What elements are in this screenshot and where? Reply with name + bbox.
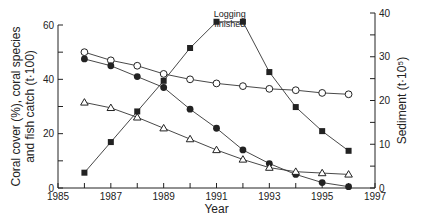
open-circle-marker [319, 90, 326, 97]
filled-square-marker [161, 78, 167, 84]
y-tick-label: 60 [43, 20, 55, 31]
y-axis-title-line2: and fish catch (t·100) [23, 50, 37, 163]
open-triangle-marker [160, 124, 168, 130]
series-open-circle [81, 49, 352, 98]
y2-tick-label: 20 [379, 95, 391, 106]
x-tick-label: 1985 [47, 191, 70, 202]
filled-circle-marker [134, 73, 141, 80]
y2-tick-label: 30 [379, 51, 391, 62]
y2-tick-label: 10 [379, 139, 391, 150]
open-circle-marker [81, 49, 88, 56]
series-open-triangle [81, 99, 353, 177]
open-circle-marker [213, 80, 220, 87]
x-tick-label: 1991 [205, 191, 228, 202]
y2-tick-label: 40 [379, 8, 391, 19]
x-tick-label: 1989 [153, 191, 176, 202]
series-group [81, 19, 353, 190]
filled-circle-marker [213, 125, 220, 132]
filled-square-marker [346, 148, 352, 154]
series-filled-circle [81, 56, 352, 190]
series-line [84, 59, 348, 187]
open-circle-marker [240, 83, 247, 90]
y-axis-title-line1: Coral cover (%), coral species [9, 26, 23, 186]
y-tick-label: 40 [43, 74, 55, 85]
open-triangle-marker [81, 99, 89, 105]
x-tick-label: 1997 [364, 191, 387, 202]
open-circle-marker [134, 62, 141, 69]
annotation-logging: Logging [214, 9, 246, 19]
y-tick-label: 20 [43, 128, 55, 139]
filled-circle-marker [81, 56, 88, 63]
filled-square-marker [293, 104, 299, 110]
series-line [84, 52, 348, 94]
open-circle-marker [187, 76, 194, 83]
open-triangle-marker [186, 135, 194, 141]
open-circle-marker [345, 91, 352, 98]
filled-square-marker [266, 69, 272, 75]
open-circle-marker [160, 71, 167, 78]
filled-circle-marker [107, 62, 114, 69]
filled-square-marker [187, 45, 193, 51]
filled-circle-marker [187, 106, 194, 113]
annotation-finished: finished [214, 19, 245, 29]
open-triangle-marker [213, 146, 221, 152]
series-line [84, 102, 348, 174]
open-circle-marker [292, 87, 299, 94]
filled-square-marker [319, 128, 325, 134]
x-tick-label: 1987 [100, 191, 123, 202]
x-tick-label: 1995 [311, 191, 334, 202]
filled-square-marker [108, 139, 114, 145]
filled-circle-marker [160, 84, 167, 91]
x-axis-title: Year [204, 202, 228, 216]
filled-circle-marker [240, 147, 247, 154]
chart: 0204060010203040198519871989199119931995… [0, 0, 422, 219]
x-tick-label: 1993 [258, 191, 281, 202]
filled-square-marker [134, 108, 140, 114]
filled-circle-marker [345, 183, 352, 190]
filled-square-marker [81, 170, 87, 176]
filled-circle-marker [319, 179, 326, 186]
open-circle-marker [266, 85, 273, 92]
y2-axis-title: Sediment (t·10⁵) [395, 57, 409, 145]
